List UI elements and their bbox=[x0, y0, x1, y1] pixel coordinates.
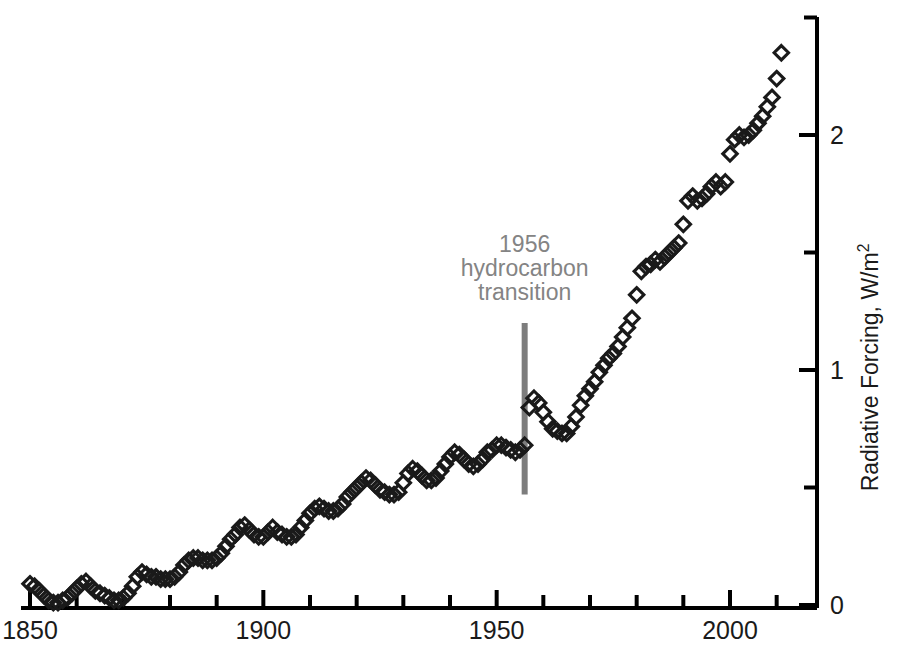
annotation-line-transition: transition bbox=[461, 280, 589, 304]
data-point-marker bbox=[625, 311, 639, 325]
y-axis-title-exponent: 2 bbox=[855, 244, 872, 253]
annotation-line-hydrocarbon: hydrocarbon bbox=[461, 256, 589, 280]
radiative-forcing-chart: 1850190019502000 012 Radiative Forcing, … bbox=[0, 0, 898, 656]
data-point-marker bbox=[629, 288, 643, 302]
data-point-marker bbox=[774, 46, 788, 60]
y-tick-label: 1 bbox=[830, 358, 844, 383]
axes bbox=[21, 17, 817, 608]
annotation-line-year: 1956 bbox=[461, 232, 589, 256]
x-tick-label: 2000 bbox=[702, 618, 758, 643]
x-tick-label: 1850 bbox=[2, 618, 58, 643]
data-markers bbox=[23, 46, 789, 610]
data-point-marker bbox=[676, 217, 690, 231]
y-axis-title: Radiative Forcing, W/m2 bbox=[859, 198, 882, 538]
x-tick-label: 1950 bbox=[469, 618, 525, 643]
y-tick-label: 2 bbox=[830, 123, 844, 148]
data-point-marker bbox=[769, 71, 783, 85]
y-tick-label: 0 bbox=[830, 593, 844, 618]
data-point-marker bbox=[765, 90, 779, 104]
x-tick-label: 1900 bbox=[236, 618, 292, 643]
transition-annotation: 1956 hydrocarbon transition bbox=[461, 232, 589, 304]
data-point-marker bbox=[723, 147, 737, 161]
y-axis-title-text: Radiative Forcing, W/m bbox=[857, 252, 883, 491]
plot-area bbox=[0, 0, 898, 656]
